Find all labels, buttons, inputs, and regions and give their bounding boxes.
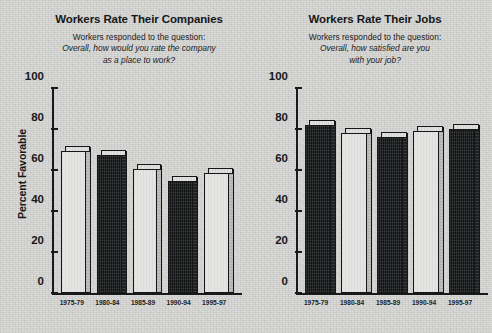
bar-slot <box>204 88 229 293</box>
bar-side-face <box>367 129 372 293</box>
bar-side-face <box>86 147 91 293</box>
bar-slot <box>61 88 86 293</box>
bar-group-jobs <box>298 88 484 293</box>
chart-subtitle-jobs: Workers responded to the question: Overa… <box>250 32 492 66</box>
x-label-1975-79: 1975-79 <box>298 299 334 306</box>
y-tick-label-20: 20 <box>275 234 288 246</box>
chart-title-companies: Workers Rate Their Companies <box>0 13 250 25</box>
bar-slot <box>341 88 366 293</box>
y-tick-label-100: 100 <box>25 70 44 82</box>
chart-subtitle-companies: Workers responded to the question: Overa… <box>0 32 250 66</box>
y-tick-label-40: 40 <box>275 193 288 205</box>
subtitle-line-1: Workers responded to the question: <box>28 32 250 43</box>
bar-side-face <box>475 125 480 293</box>
y-tick-label-40: 40 <box>31 193 44 205</box>
x-label-1990-94: 1990-94 <box>161 299 197 306</box>
x-label-1985-89: 1985-89 <box>370 299 406 306</box>
bar-companies-1985-89 <box>133 169 158 293</box>
x-label-1980-84: 1980-84 <box>334 299 370 306</box>
x-axis-category-labels-companies: 1975-791980-841985-891990-941995-97 <box>52 299 238 315</box>
bar-slot <box>97 88 122 293</box>
y-axis-label: Percent Favorable <box>16 114 28 234</box>
bar-slot <box>168 88 193 293</box>
bar-companies-1975-79 <box>61 151 86 293</box>
bar-side-face <box>403 133 408 293</box>
bar-side-face <box>122 151 127 293</box>
chart-panel-companies: Workers Rate Their Companies Workers res… <box>0 0 250 333</box>
bar-slot <box>413 88 438 293</box>
bar-companies-1980-84 <box>97 155 122 293</box>
bar-companies-1995-97 <box>204 173 229 293</box>
subtitle-line-1: Workers responded to the question: <box>258 32 492 43</box>
bar-slot <box>377 88 402 293</box>
x-axis-category-labels-jobs: 1975-791980-841985-891990-941995-97 <box>296 299 484 315</box>
bar-jobs-1975-79 <box>305 125 330 293</box>
subtitle-line-2: Overall, how would you rate the company <box>28 43 250 54</box>
x-label-1975-79: 1975-79 <box>54 299 90 306</box>
bar-jobs-1985-89 <box>377 137 402 293</box>
bar-side-face <box>157 165 162 293</box>
x-label-1985-89: 1985-89 <box>125 299 161 306</box>
y-tick-label-0: 0 <box>38 275 44 287</box>
bar-side-face <box>229 169 234 293</box>
bar-jobs-1990-94 <box>413 131 438 293</box>
bar-jobs-1980-84 <box>341 133 366 293</box>
bar-slot <box>305 88 330 293</box>
plot-area-jobs: 020406080100 <box>296 88 484 295</box>
subtitle-line-3: as a place to work? <box>28 55 250 66</box>
subtitle-line-2: Overall, how satisfied are you <box>258 43 492 54</box>
y-tick-label-60: 60 <box>31 152 44 164</box>
y-tick-label-0: 0 <box>282 275 288 287</box>
x-label-1990-94: 1990-94 <box>406 299 442 306</box>
x-label-1980-84: 1980-84 <box>90 299 126 306</box>
bar-jobs-1995-97 <box>449 129 474 293</box>
bar-side-face <box>439 127 444 293</box>
x-axis-line <box>296 293 488 295</box>
bar-companies-1990-94 <box>168 181 193 293</box>
bar-group-companies <box>54 88 238 293</box>
bar-side-face <box>193 177 198 293</box>
subtitle-line-3: with your job? <box>258 55 492 66</box>
x-axis-line <box>52 293 242 295</box>
y-tick-label-60: 60 <box>275 152 288 164</box>
bar-side-face <box>331 121 336 293</box>
bar-slot <box>449 88 474 293</box>
y-tick-label-100: 100 <box>269 70 288 82</box>
x-label-1995-97: 1995-97 <box>196 299 232 306</box>
x-label-1995-97: 1995-97 <box>442 299 478 306</box>
y-tick-label-80: 80 <box>31 111 44 123</box>
chart-panel-jobs: Workers Rate Their Jobs Workers responde… <box>250 0 492 333</box>
dual-bar-chart-figure: Workers Rate Their Companies Workers res… <box>0 0 492 333</box>
y-tick-label-80: 80 <box>275 111 288 123</box>
y-tick-label-20: 20 <box>31 234 44 246</box>
plot-area-companies: 020406080100 <box>52 88 238 295</box>
chart-title-jobs: Workers Rate Their Jobs <box>250 13 492 25</box>
bar-slot <box>133 88 158 293</box>
